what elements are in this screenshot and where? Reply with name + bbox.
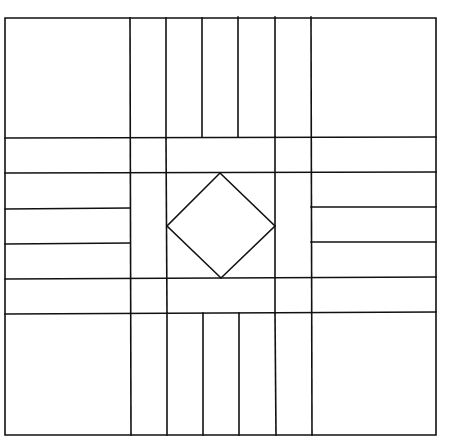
- pattern-line-v-275-bot: [275, 313, 276, 435]
- pattern-line-h-314: [5, 312, 436, 314]
- outer-border: [5, 18, 436, 435]
- pattern-line-h-244-left: [5, 243, 130, 244]
- pattern-lines: [5, 17, 436, 435]
- quilt-block-diagram: [0, 0, 449, 448]
- pattern-line-v-130: [130, 18, 131, 435]
- center-diamond: [167, 173, 275, 278]
- pattern-line-h-209-left: [5, 208, 130, 209]
- pattern-line-h-138: [5, 137, 436, 138]
- pattern-line-v-311: [311, 17, 312, 435]
